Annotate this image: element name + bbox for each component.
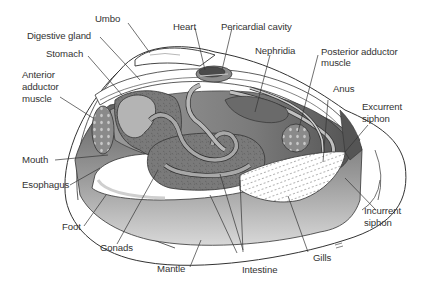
label-anterior-adductor-muscle-1: Anterior — [22, 69, 55, 81]
label-digestive-gland: Digestive gland — [27, 30, 91, 42]
label-mantle: Mantle — [157, 263, 185, 275]
label-pericardial-cavity: Pericardial cavity — [221, 21, 292, 33]
clam-anatomy-diagram — [0, 0, 425, 287]
label-umbo: Umbo — [95, 13, 120, 25]
label-stomach: Stomach — [46, 48, 83, 60]
anterior-adductor-muscle — [92, 106, 114, 154]
label-incurrent-siphon-2: siphon — [364, 217, 392, 229]
label-gills: Gills — [313, 252, 331, 264]
label-anterior-adductor-muscle-3: muscle — [22, 93, 52, 105]
label-heart: Heart — [173, 21, 196, 33]
label-anterior-adductor-muscle-2: adductor — [22, 81, 59, 93]
label-esophagus: Esophagus — [22, 179, 69, 191]
label-mouth: Mouth — [22, 154, 48, 166]
label-incurrent-siphon-1: Incurrent — [364, 205, 401, 217]
label-nephridia: Nephridia — [255, 45, 295, 57]
label-intestine: Intestine — [242, 264, 277, 276]
label-posterior-adductor-muscle-2: muscle — [321, 57, 351, 69]
posterior-adductor-muscle — [282, 124, 310, 152]
label-foot: Foot — [62, 221, 81, 233]
label-gonads: Gonads — [100, 242, 133, 254]
label-excurrent-siphon-1: Excurrent — [362, 101, 402, 113]
label-anus: Anus — [333, 83, 354, 95]
label-excurrent-siphon-2: siphon — [362, 113, 390, 125]
label-posterior-adductor-muscle-1: Posterior adductor — [321, 46, 398, 58]
